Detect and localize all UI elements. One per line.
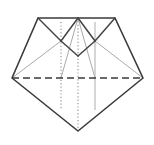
crease-pattern-svg <box>0 0 154 145</box>
crease-cross-left-to-v-bottom <box>61 41 78 56</box>
faint-right-vertex-to-cross-right <box>95 41 143 78</box>
crease-top-center-to-cross-left <box>61 18 78 41</box>
crease-top-center-to-cross-right <box>78 18 95 41</box>
crease-v-bottom-to-cross-right <box>78 41 95 56</box>
crease-top-left-to-cross-left <box>38 18 61 41</box>
crease-cross-right-to-top-right <box>95 18 115 41</box>
crease-pattern-diagram <box>0 0 154 145</box>
